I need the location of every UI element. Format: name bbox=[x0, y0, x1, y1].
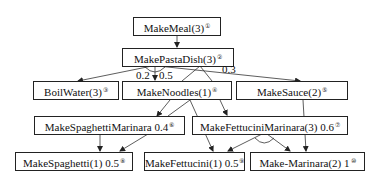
node-label: MakeSauce(2) bbox=[257, 86, 321, 98]
edge-noodles-spagmar bbox=[157, 100, 170, 116]
node-label: BoilWater(3) bbox=[44, 86, 102, 98]
node-label: MakeSpaghetti(1) 0.5 bbox=[23, 157, 119, 169]
node-makefettucinimarinara: MakeFettuciniMarinara(3) 0.6⑦ bbox=[192, 116, 348, 135]
step-marker: ⑦ bbox=[335, 122, 340, 128]
edge-label-makesauce: 0.3 bbox=[222, 63, 236, 75]
step-marker: ⑩ bbox=[351, 158, 356, 164]
node-makemarinara: Make-Marinara(2) 1⑩ bbox=[250, 152, 365, 171]
edge-noodles-spagmar2 bbox=[168, 100, 190, 116]
step-marker: ③ bbox=[103, 87, 108, 93]
node-label: MakeFettuciniMarinara(3) 0.6 bbox=[200, 121, 334, 133]
step-marker: ⑤ bbox=[322, 87, 327, 93]
node-label: MakeSpaghettiMarinara 0.4 bbox=[45, 121, 168, 133]
step-marker: ④ bbox=[212, 87, 217, 93]
node-boilwater: BoilWater(3)③ bbox=[33, 81, 119, 100]
node-makespaghetti: MakeSpaghetti(1) 0.5⑧ bbox=[15, 152, 133, 171]
edge-spagmar-spaghetti-2 bbox=[120, 134, 148, 151]
and-arc-fetmar bbox=[255, 138, 274, 143]
step-marker: ⑧ bbox=[120, 158, 125, 164]
step-marker: ⑥ bbox=[169, 122, 174, 128]
edge-fetmar-marinara bbox=[267, 134, 290, 151]
edge-pastadish-spagmar bbox=[182, 66, 200, 81]
node-makesauce: MakeSauce(2)⑤ bbox=[236, 81, 348, 100]
node-makespaghettimarinara: MakeSpaghettiMarinara 0.4⑥ bbox=[34, 116, 185, 135]
node-makefettucini: MakeFettucini(1) 0.5⑨ bbox=[144, 152, 245, 171]
edge-fetmar-fettucini bbox=[228, 134, 262, 151]
node-label: MakeNoodles(1) bbox=[137, 86, 212, 98]
edge-label-makenoodles: 0.5 bbox=[159, 69, 173, 81]
node-label: Make-Marinara(2) 1 bbox=[259, 157, 349, 169]
node-label: MakeFettucini(1) 0.5 bbox=[145, 157, 238, 169]
node-makemeal: MakeMeal(3)① bbox=[133, 17, 221, 36]
node-makenoodles: MakeNoodles(1)④ bbox=[122, 81, 232, 100]
node-label: MakeMeal(3) bbox=[144, 22, 204, 34]
step-marker: ② bbox=[217, 54, 222, 60]
edge-label-boilwater: 0.2 bbox=[136, 69, 150, 81]
node-label: MakePastaDish(3) bbox=[134, 53, 216, 65]
node-makepastadish: MakePastaDish(3)② bbox=[122, 48, 234, 67]
edge-noodles-fetmar bbox=[220, 100, 227, 115]
edge-pastadish-fetmar bbox=[200, 66, 212, 81]
step-marker: ① bbox=[205, 23, 210, 29]
step-marker: ⑨ bbox=[239, 158, 244, 164]
